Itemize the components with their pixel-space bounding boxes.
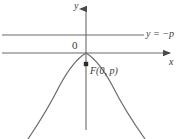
focus-point-marker: [84, 62, 88, 66]
y-axis-label: y: [74, 1, 78, 11]
directrix-label: y = −p: [146, 29, 174, 39]
x-axis-label: x: [169, 57, 173, 67]
focus-label: F(0, p): [90, 66, 118, 76]
origin-label: 0: [72, 40, 78, 51]
parabola-figure: y x 0 y = −p F(0, p): [0, 0, 180, 139]
